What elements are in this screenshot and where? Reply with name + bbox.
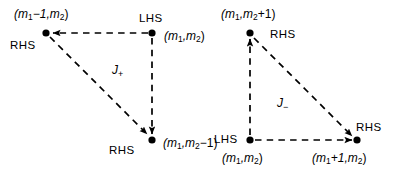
side-label-left-bottom-right: RHS [109,145,134,157]
coord-label-left-top-right: (m1,m2) [164,30,205,44]
coord-label-left-bottom-right: (m1,m2−1) [163,137,218,151]
side-label-left-top-right: LHS [139,13,163,25]
operator-label-j-minus: J− [277,97,288,112]
left-diagram [42,29,155,143]
node-left-bottom-right [148,136,155,143]
right-diagram [246,29,360,143]
side-label-right-bottom-right: RHS [356,122,381,134]
node-left-top-right [148,29,155,36]
side-label-left-top-left: RHS [10,40,35,52]
operator-label-j-plus: J+ [112,64,123,79]
node-right-top [246,29,253,36]
lattice-hopping-figure: (m1−1,m2) RHS LHS (m1,m2) RHS (m1,m2−1) … [0,0,406,182]
coord-label-right-top: (m1,m2+1) [221,8,276,22]
coord-label-left-top-left: (m1−1,m2) [14,8,68,22]
coord-label-right-bottom-right: (m1+1,m2) [312,152,366,166]
left-edge-diagonal [50,37,147,134]
coord-label-right-bottom-left: (m1,m2) [222,152,263,166]
side-label-right-bottom-left: LHS [214,134,238,146]
node-right-bottom-left [246,136,253,143]
right-edge-diagonal [254,38,352,136]
side-label-right-top: RHS [270,29,295,41]
node-right-bottom-right [353,136,360,143]
node-left-top-left [42,29,49,36]
